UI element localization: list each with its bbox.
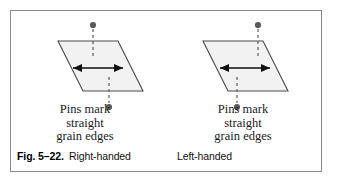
parallelogram-shape [58,41,143,91]
figure-label-right-handed: Right-handed [69,150,131,162]
pins-annotation-left-handed: Pins mark straight grain edges [165,103,321,144]
figure-frame: Pins mark straight grain edges Pins mark… [10,10,322,172]
top-pin-head [90,22,96,28]
panel-right-handed: Pins mark straight grain edges [11,11,167,173]
figure-caption-row: Fig. 5–22. Right-handed Left-handed [11,150,323,170]
diagram-area: Pins mark straight grain edges Pins mark… [11,11,323,173]
figure-label-left-handed: Left-handed [177,150,232,162]
top-pin-head [255,22,261,28]
figure-number: Fig. 5–22. [17,150,64,162]
panel-left-handed: Pins mark straight grain edges [167,11,323,173]
parallelogram-shape [203,41,288,91]
pins-annotation-right-handed: Pins mark straight grain edges [7,103,163,144]
